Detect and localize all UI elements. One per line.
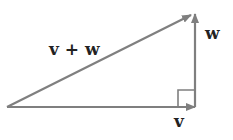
label-sum: v + w (48, 39, 100, 59)
vector-diagram: v + w w v (0, 0, 233, 140)
vector-sum-arrow (7, 15, 191, 107)
label-v: v (173, 111, 185, 131)
right-angle-marker (178, 90, 195, 107)
label-w: w (204, 23, 220, 43)
